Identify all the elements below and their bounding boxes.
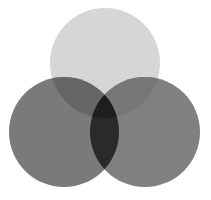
venn-diagram — [0, 0, 211, 200]
